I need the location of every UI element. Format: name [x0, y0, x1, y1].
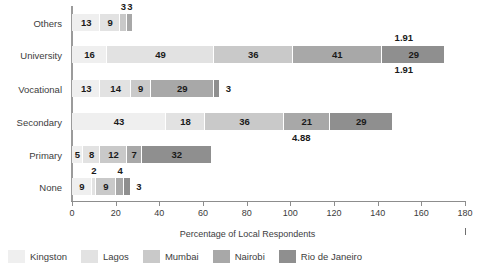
- legend-item-mumbai[interactable]: Mumbai: [143, 250, 199, 263]
- x-tick-label-120: 120: [326, 208, 341, 218]
- x-tick-100: [290, 201, 291, 206]
- bar-row-others: 139: [0, 14, 495, 31]
- plot-area: 020406080100120140160180 OthersUniversit…: [0, 0, 495, 279]
- bar-value-label: 9: [79, 178, 84, 195]
- x-tick-0: [72, 201, 73, 206]
- x-axis-title: Percentage of Local Respondents: [0, 229, 495, 239]
- x-tick-120: [334, 201, 335, 206]
- legend-item-nairobi[interactable]: Nairobi: [213, 250, 265, 263]
- bar-value-label: 41: [332, 46, 343, 63]
- bar-value-label: 9: [108, 14, 113, 31]
- x-tick-label-0: 0: [69, 208, 74, 218]
- bar-value-label: 36: [239, 113, 250, 130]
- bar-row-primary: 5812732: [0, 146, 495, 163]
- y-axis-line: [71, 6, 73, 202]
- x-tick-label-60: 60: [198, 208, 208, 218]
- bar-value-label: 13: [81, 14, 92, 31]
- legend-item-lagos[interactable]: Lagos: [81, 250, 129, 263]
- legend: KingstonLagosMumbaiNairobiRio de Janeiro: [8, 250, 376, 263]
- bar-value-label: 21: [301, 113, 312, 130]
- x-tick-label-20: 20: [111, 208, 121, 218]
- annotation-university-above: 1.91: [395, 32, 414, 43]
- bar-segment-none-nairobi: [116, 178, 125, 195]
- bar-segment-vocational-rio-de-janeiro: [214, 80, 221, 97]
- bar-value-label: 7: [132, 146, 137, 163]
- x-tick-label-180: 180: [457, 208, 472, 218]
- legend-label: Mumbai: [165, 251, 199, 262]
- x-tick-label-100: 100: [283, 208, 298, 218]
- bar-value-label: 9: [138, 80, 143, 97]
- bar-value-label: 5: [75, 146, 80, 163]
- bar-value-label: 16: [84, 46, 95, 63]
- bar-value-label: 49: [155, 46, 166, 63]
- bar-value-label: 36: [248, 46, 259, 63]
- legend-swatch-icon: [279, 250, 296, 263]
- legend-label: Lagos: [103, 251, 129, 262]
- legend-item-rio-de-janeiro[interactable]: Rio de Janeiro: [279, 250, 362, 263]
- x-tick-label-80: 80: [242, 208, 252, 218]
- x-tick-180: [465, 201, 466, 206]
- legend-swatch-icon: [8, 250, 25, 263]
- x-tick-60: [203, 201, 204, 206]
- bar-segment-others-nairobi: [127, 14, 134, 31]
- bar-value-label: 12: [108, 146, 119, 163]
- bar-value-label: 4: [117, 165, 122, 176]
- x-tick-label-40: 40: [154, 208, 164, 218]
- bar-row-university: 1649364129: [0, 46, 495, 63]
- legend-swatch-icon: [81, 250, 98, 263]
- bar-value-label: 13: [81, 80, 92, 97]
- legend-label: Kingston: [30, 251, 67, 262]
- bar-row-none: 99: [0, 178, 495, 195]
- bar-value-label: 8: [89, 146, 94, 163]
- bar-value-label: 43: [114, 113, 125, 130]
- bar-value-label: 18: [180, 113, 191, 130]
- bar-segment-none-rio-de-janeiro: [124, 178, 131, 195]
- annotation-university-below: 1.91: [395, 64, 414, 75]
- x-axis-line: [71, 201, 465, 202]
- bar-value-label: 29: [408, 46, 419, 63]
- bar-value-label: 9: [103, 178, 108, 195]
- x-tick-label-140: 140: [370, 208, 385, 218]
- x-tick-140: [378, 201, 379, 206]
- legend-label: Rio de Janeiro: [301, 251, 362, 262]
- x-tick-40: [159, 201, 160, 206]
- bar-value-label: 32: [172, 146, 183, 163]
- stacked-bar-chart: 020406080100120140160180 OthersUniversit…: [0, 0, 495, 279]
- x-tick-160: [421, 201, 422, 206]
- legend-item-kingston[interactable]: Kingston: [8, 250, 67, 263]
- bar-row-secondary: 4318362129: [0, 113, 495, 130]
- bar-value-label: 14: [110, 80, 121, 97]
- bar-value-label: 29: [356, 113, 367, 130]
- legend-swatch-icon: [143, 250, 160, 263]
- bar-value-label: 3: [121, 1, 126, 12]
- legend-swatch-icon: [213, 250, 230, 263]
- legend-label: Nairobi: [235, 251, 265, 262]
- bar-value-label: 3: [127, 1, 132, 12]
- bar-row-vocational: 1314929: [0, 80, 495, 97]
- x-tick-20: [116, 201, 117, 206]
- x-tick-label-160: 160: [414, 208, 429, 218]
- x-tick-80: [247, 201, 248, 206]
- bar-value-label: 2: [91, 165, 96, 176]
- annotation-secondary-below: 4.88: [292, 132, 311, 143]
- bar-value-label: 29: [177, 80, 188, 97]
